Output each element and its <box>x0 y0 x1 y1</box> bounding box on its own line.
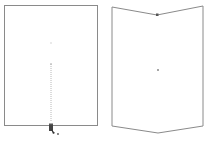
canvas[interactable] <box>0 0 209 142</box>
center-marker <box>50 42 52 44</box>
notch-vertex-marker[interactable] <box>156 14 159 17</box>
drag-cursor-icon <box>49 125 59 135</box>
left-shape-group[interactable] <box>5 6 98 135</box>
center-marker <box>157 69 159 71</box>
right-shape-group[interactable] <box>112 6 203 133</box>
rectangle-shape[interactable] <box>5 6 98 126</box>
